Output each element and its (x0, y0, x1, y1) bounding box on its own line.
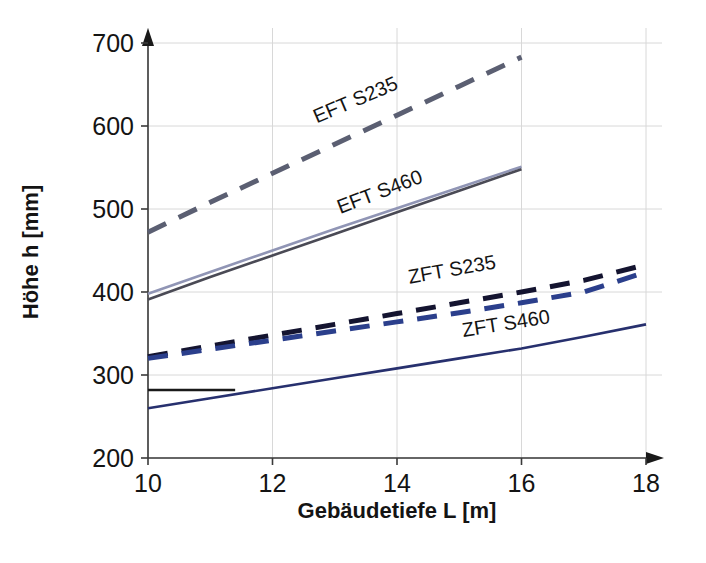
x-tick-label: 12 (259, 469, 287, 497)
x-tick-label: 10 (134, 469, 162, 497)
y-tick-label: 300 (92, 361, 134, 389)
x-tick-label: 16 (508, 469, 536, 497)
y-tick-label: 700 (92, 29, 134, 57)
line-chart: 200300400500600700 1012141618 EFT S235EF… (0, 0, 706, 563)
y-tick-label: 400 (92, 278, 134, 306)
x-tick-label: 14 (383, 469, 411, 497)
y-tick-label: 200 (92, 444, 134, 472)
y-tick-label: 600 (92, 112, 134, 140)
x-axis-title: Gebäudetiefe L [m] (298, 498, 497, 523)
y-axis-title: Höhe h [mm] (18, 185, 43, 319)
y-tick-label: 500 (92, 195, 134, 223)
x-tick-label: 18 (632, 469, 660, 497)
chart-figure: 200300400500600700 1012141618 EFT S235EF… (0, 0, 706, 563)
